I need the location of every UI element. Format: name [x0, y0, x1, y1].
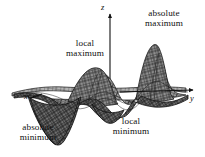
label-absolute-maximum-line1: absolute: [128, 8, 200, 18]
label-local-minimum: local minimum: [99, 116, 163, 136]
axis-label-x: x: [24, 93, 28, 101]
label-absolute-maximum-line2: maximum: [128, 18, 200, 28]
label-absolute-maximum: absolute maximum: [128, 8, 200, 28]
axis-label-z: z: [101, 4, 104, 12]
label-local-minimum-line2: minimum: [99, 126, 163, 136]
label-local-maximum: local maximum: [50, 38, 120, 58]
label-absolute-minimum-line2: minimum: [2, 132, 74, 142]
label-local-minimum-line1: local: [99, 116, 163, 126]
label-local-maximum-line1: local: [50, 38, 120, 48]
axis-label-y: y: [190, 95, 194, 103]
label-local-maximum-line2: maximum: [50, 48, 120, 58]
label-absolute-minimum-line1: absolute: [2, 122, 74, 132]
label-absolute-minimum: absolute minimum: [2, 122, 74, 142]
surface-plot-figure: absolute maximum local maximum absolute …: [0, 0, 205, 157]
